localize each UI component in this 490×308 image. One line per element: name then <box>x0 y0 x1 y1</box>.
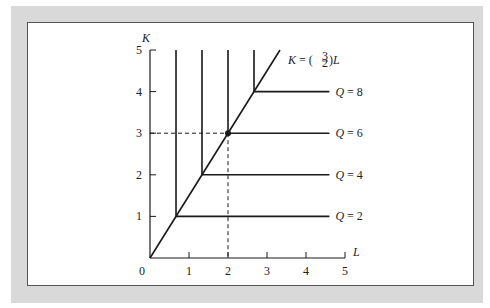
y-tick-label: 2 <box>136 168 142 182</box>
y-tick-label: 1 <box>136 209 142 223</box>
fraction-denominator: 2 <box>322 56 328 70</box>
x-axis-label: L <box>352 245 360 259</box>
expansion-path-label: K = ( <box>287 53 313 67</box>
y-tick-label: 4 <box>136 85 142 99</box>
y-tick-label: 3 <box>136 126 142 140</box>
isoquant-label: Q = 8 <box>335 85 362 99</box>
expansion-path-label-suffix: )L <box>329 53 340 67</box>
expansion-path-line <box>150 50 280 258</box>
isoquant-label: Q = 2 <box>335 209 362 223</box>
isoquant-chart: 12345123450LKQ = 2Q = 4Q = 6Q = 8K = (32… <box>0 0 490 308</box>
isoquant-line <box>202 50 329 175</box>
y-axis-label: K <box>141 31 151 45</box>
x-tick-label: 5 <box>342 264 348 278</box>
x-tick-label: 3 <box>264 264 270 278</box>
x-tick-label: 1 <box>186 264 192 278</box>
isoquant-label: Q = 4 <box>335 168 362 182</box>
origin-label: 0 <box>139 264 145 278</box>
x-tick-label: 4 <box>303 264 309 278</box>
y-tick-label: 5 <box>136 43 142 57</box>
x-tick-label: 2 <box>225 264 231 278</box>
isoquant-label: Q = 6 <box>335 126 362 140</box>
optimal-point-marker <box>225 130 231 136</box>
